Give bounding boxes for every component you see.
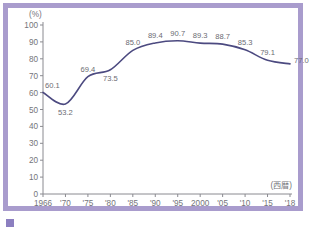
x-axis-tick-label: 1966 <box>34 199 53 208</box>
data-point-label: 89.4 <box>148 31 163 40</box>
y-axis-tick-label: 10 <box>29 173 39 182</box>
y-axis-tick-label: 40 <box>29 122 39 131</box>
data-point-label: 73.5 <box>103 74 118 83</box>
data-point-label: 53.2 <box>58 108 73 117</box>
data-point-label: 69.4 <box>81 65 96 74</box>
data-point-label: 88.7 <box>215 32 230 41</box>
x-axis-tick-label: '15 <box>262 199 273 208</box>
y-axis-unit-label: (%) <box>29 10 42 19</box>
data-point-label: 85.3 <box>238 38 253 47</box>
x-axis-tick-label: '18 <box>285 199 296 208</box>
x-axis-tick-label: '80 <box>105 199 116 208</box>
y-axis-tick-label: 70 <box>29 72 39 81</box>
chart-canvas: (%)10090807060504030201001966'70'75'80'8… <box>0 0 312 233</box>
y-axis-tick-label: 100 <box>24 21 38 30</box>
data-point-label: 90.7 <box>170 29 185 38</box>
chart-screenshot: (%)10090807060504030201001966'70'75'80'8… <box>0 0 312 233</box>
caption-marker-icon <box>6 219 14 227</box>
x-axis-tick-label: '90 <box>150 199 161 208</box>
data-point-label: 77.0 <box>294 56 309 65</box>
y-axis-tick-label: 50 <box>29 106 39 115</box>
x-axis-tick-label: '85 <box>127 199 138 208</box>
data-point-label: 60.1 <box>45 81 60 90</box>
y-axis-tick-label: 60 <box>29 89 39 98</box>
y-axis-tick-label: 30 <box>29 139 39 148</box>
data-point-label: 85.0 <box>125 38 140 47</box>
x-axis-tick-label: '10 <box>240 199 251 208</box>
figure-caption <box>6 218 306 229</box>
x-axis-tick-label: '05 <box>217 199 228 208</box>
x-axis-tick-label: 2000 <box>191 199 210 208</box>
y-axis-tick-label: 20 <box>29 156 39 165</box>
data-point-label: 79.1 <box>260 48 275 57</box>
x-axis-unit-label: (西暦) <box>271 181 293 190</box>
x-axis-tick-label: '75 <box>83 199 94 208</box>
y-axis-tick-label: 90 <box>29 38 39 47</box>
data-point-label: 89.3 <box>193 31 208 40</box>
x-axis-tick-label: '70 <box>60 199 71 208</box>
line-chart: (%)10090807060504030201001966'70'75'80'8… <box>0 0 312 233</box>
y-axis-tick-label: 80 <box>29 55 39 64</box>
x-axis-tick-label: '95 <box>172 199 183 208</box>
y-axis-tick-label: 0 <box>33 190 38 199</box>
